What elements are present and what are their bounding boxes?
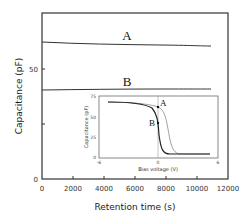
inset-label-a: A [160,98,167,108]
chart-figure: 50 0 0 2000 4000 6000 8000 10000 12000 R… [0,0,251,222]
inset-point-b [157,122,159,124]
inset-y-title: Capacitance (pF) [83,106,90,149]
inset-label-b: B [149,118,155,128]
x-axis-title: Retention time (s) [94,202,175,212]
x-tick-4000: 4000 [95,185,113,193]
y-tick-0: 0 [34,176,38,184]
x-tick-0: 0 [40,185,44,193]
inset-y-tick-50: 50 [90,115,96,120]
inset-x-title: Bias voltage (V) [138,166,178,173]
curve-b-label: B [123,74,132,89]
inset-chart: 75 50 25 0 -6 0 6 Bias voltage (V) Capac… [83,94,220,173]
inset-y-tick-75: 75 [90,94,96,99]
inset-y-tick-0: 0 [93,155,96,160]
main-y-ticks: 50 0 [29,66,45,184]
inset-point-a [157,106,159,108]
x-tick-12000: 12000 [217,185,239,193]
y-axis-title: Capacitance (pF) [14,58,24,134]
curve-b [42,89,211,90]
inset-x-tick-6: 6 [217,160,220,165]
curve-a-label: A [122,28,132,43]
inset-x-tick-neg6: -6 [97,160,102,165]
x-tick-8000: 8000 [157,185,175,193]
x-tick-2000: 2000 [64,185,82,193]
y-tick-50: 50 [29,66,38,74]
x-tick-10000: 10000 [186,185,208,193]
x-tick-6000: 6000 [126,185,144,193]
inset-x-tick-0: 0 [157,160,160,165]
inset-y-tick-25: 25 [90,135,96,140]
